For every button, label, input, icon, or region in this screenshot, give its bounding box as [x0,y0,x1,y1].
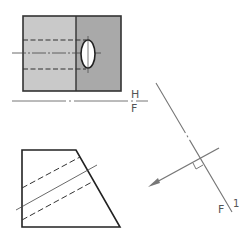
fold-line-hf: H F [12,88,148,115]
inclined-fold-line [156,83,232,212]
hidden-line-upper [22,157,80,188]
top-view [12,16,121,91]
orthographic-drawing: H F F 1 [0,0,248,240]
front-view [16,150,120,227]
label-h: H [131,88,139,101]
top-view-left-face [23,16,76,91]
label-f-aux: F [218,203,224,216]
label-1: 1 [233,198,239,209]
fold-line-f1: F 1 [148,83,239,216]
label-f: F [131,102,137,115]
center-line-axis [16,165,97,210]
view-direction-line [153,148,219,184]
arrowhead-icon [148,178,160,187]
right-angle-mark [193,163,203,169]
